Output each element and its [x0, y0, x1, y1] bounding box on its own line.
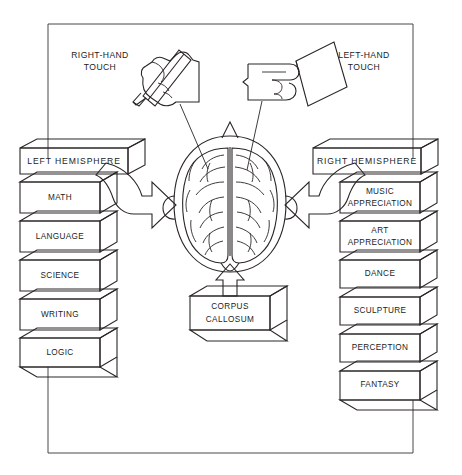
- corpus-callosum-box[interactable]: CORPUS CALLOSUM: [190, 286, 287, 341]
- left-hemisphere-header-box[interactable]: LEFT HEMISPHERE: [20, 139, 145, 174]
- left-function-box-science[interactable]: SCIENCE: [20, 250, 117, 291]
- right-function-box-music-appreciation[interactable]: MUSIC APPRECIATION: [340, 172, 437, 213]
- right-hand-touch-label-line1: RIGHT-HAND: [71, 50, 128, 60]
- corpus-callosum-label-line1: CORPUS: [211, 302, 249, 311]
- left-function-box-logic[interactable]: LOGIC: [20, 328, 117, 377]
- right-function-label-line2: APPRECIATION: [348, 199, 413, 208]
- right-hand-leader-line: [180, 104, 208, 169]
- right-function-label-line1: FANTASY: [360, 380, 399, 389]
- left-hemisphere-header-label: LEFT HEMISPHERE: [27, 156, 121, 166]
- left-function-box-writing[interactable]: WRITING: [20, 289, 117, 330]
- left-hand-touch-group: LEFT-HAND TOUCH: [243, 42, 390, 170]
- right-function-box-dance[interactable]: DANCE: [340, 250, 437, 288]
- left-gyri: [186, 155, 225, 255]
- right-hemisphere-arrow: [285, 163, 365, 228]
- right-hand-touch-group: RIGHT-HAND TOUCH: [71, 50, 208, 169]
- right-function-box-art-appreciation[interactable]: ART APPRECIATION: [340, 211, 437, 252]
- hand-holding-card-icon: [243, 42, 347, 106]
- left-function-label: LOGIC: [46, 348, 73, 357]
- left-function-box-language[interactable]: LANGUAGE: [20, 211, 117, 252]
- left-function-box-math[interactable]: MATH: [20, 172, 117, 213]
- right-function-label-line1: PERCEPTION: [352, 343, 409, 352]
- right-gyri: [235, 155, 274, 255]
- right-function-box-perception[interactable]: PERCEPTION: [340, 324, 437, 362]
- corpus-callosum-arrow: [216, 264, 244, 296]
- left-function-label: LANGUAGE: [36, 232, 84, 241]
- right-function-label-line1: MUSIC: [366, 187, 394, 196]
- left-function-label: WRITING: [41, 310, 79, 319]
- left-hand-touch-label-line1: LEFT-HAND: [338, 50, 389, 60]
- right-hemisphere-header-box[interactable]: RIGHT HEMISPHERE: [313, 139, 438, 174]
- right-function-label-line1: DANCE: [365, 269, 396, 278]
- left-hand-touch-label-line2: TOUCH: [348, 62, 380, 72]
- right-function-box-fantasy[interactable]: FANTASY: [340, 361, 437, 410]
- left-hemisphere-arrow: [96, 163, 176, 228]
- right-hand-touch-label-line2: TOUCH: [84, 62, 116, 72]
- left-function-label: MATH: [48, 193, 72, 202]
- right-function-label-line1: SCULPTURE: [354, 306, 407, 315]
- brain-top-view-icon: [163, 122, 297, 272]
- right-function-box-sculpture[interactable]: SCULPTURE: [340, 287, 437, 325]
- corpus-callosum-label-line2: CALLOSUM: [206, 315, 255, 324]
- left-function-label: SCIENCE: [41, 271, 80, 280]
- right-function-label-line2: APPRECIATION: [348, 238, 413, 247]
- hand-holding-pencil-icon: [133, 50, 199, 106]
- right-hemisphere-header-label: RIGHT HEMISPHERE: [317, 156, 417, 166]
- right-function-label-line1: ART: [371, 226, 388, 235]
- diagram-canvas: RIGHT-HAND TOUCH LEFT-HAND TOUCH: [0, 0, 462, 475]
